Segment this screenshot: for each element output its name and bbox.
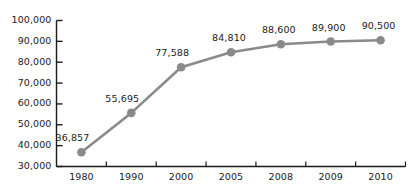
data-point-label: 77,588 (149, 47, 195, 58)
data-point-marker[interactable] (376, 36, 385, 45)
y-axis-tick-label: 50,000 (2, 118, 52, 129)
data-point-label: 36,857 (49, 132, 95, 143)
data-point-marker[interactable] (277, 40, 286, 49)
x-axis-tick-label: 2000 (156, 171, 206, 182)
y-axis-tick-label: 90,000 (2, 35, 52, 46)
y-axis-tick-label: 40,000 (2, 139, 52, 150)
y-axis-tick-label: 100,000 (2, 14, 52, 25)
x-axis-tick-label: 2010 (356, 171, 406, 182)
y-axis-tick-label: 80,000 (2, 56, 52, 67)
data-point-label: 84,810 (206, 32, 252, 43)
data-point-marker[interactable] (127, 109, 136, 118)
line-chart: 30,00040,00050,00060,00070,00080,00090,0… (0, 0, 412, 193)
x-axis-tick-label: 2009 (306, 171, 356, 182)
x-axis-tick-label: 1990 (106, 171, 156, 182)
y-axis-ticks (57, 21, 63, 167)
data-point-marker[interactable] (227, 48, 236, 57)
x-axis-tick-label: 2008 (256, 171, 306, 182)
data-point-label: 90,500 (356, 20, 402, 31)
y-axis-tick-label: 30,000 (2, 160, 52, 171)
data-point-label: 55,695 (99, 93, 145, 104)
x-axis-ticks (106, 162, 405, 167)
x-axis-tick-label: 1980 (57, 171, 107, 182)
data-point-marker[interactable] (77, 148, 86, 157)
footer-caption (12, 182, 252, 190)
y-axis-tick-label: 70,000 (2, 77, 52, 88)
data-point-marker[interactable] (177, 63, 186, 72)
data-point-label: 89,900 (306, 22, 352, 33)
data-point-marker[interactable] (326, 37, 335, 46)
data-point-label: 88,600 (256, 24, 302, 35)
x-axis-tick-label: 2005 (206, 171, 256, 182)
y-axis-tick-label: 60,000 (2, 97, 52, 108)
